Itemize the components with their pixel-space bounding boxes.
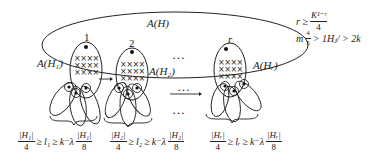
bound-2-ell: l₂	[136, 136, 142, 147]
condition-m-rest: > 1Hⱼ/ > 2k	[313, 33, 361, 44]
bound-2-k-power: k⁻λ	[152, 136, 166, 147]
ge-symbol: ≥	[144, 136, 150, 147]
group-r-index: r	[228, 34, 232, 45]
bound-r-frac-right: |Hᵣ| 8	[266, 131, 282, 152]
group-r-crosses: ×××× ×××× ××××	[218, 59, 243, 80]
condition-r-lhs: r ≥	[296, 16, 308, 27]
bound-1-denominator: 4	[24, 142, 29, 152]
ge-symbol: ≥	[52, 136, 58, 147]
bound-1-frac-right: |H₁| 8	[76, 131, 93, 152]
group-2-index: 2	[129, 38, 135, 49]
ellipsis-mid: …	[177, 80, 190, 93]
group-r-shape	[208, 43, 266, 123]
bound-1-numerator: |H₁|	[18, 131, 35, 142]
ge-symbol: ≥	[129, 136, 135, 147]
bound-1-ell: l₁	[44, 136, 50, 147]
condition-r-fraction: K¹⁻ʳ 4	[310, 11, 327, 32]
bound-group-1: |H₁| 4 ≥ l₁ ≥ k⁻λ |H₁| 8	[18, 131, 92, 152]
ge-symbol: ≥	[228, 136, 234, 147]
condition-m-prefix: m	[296, 33, 303, 44]
condition-r: r ≥ K¹⁻ʳ 4	[296, 11, 327, 32]
ellipsis-bottom: …	[172, 103, 185, 116]
bound-2-denominator: 4	[116, 142, 121, 152]
bound-1-frac-left: |H₁| 4	[18, 131, 35, 152]
bound-2-frac-right: |H₂| 8	[168, 131, 185, 152]
bound-r-denominator: 4	[216, 142, 221, 152]
bound-2-frac-left: |H₂| 4	[110, 131, 127, 152]
outer-set-label: A(H)	[147, 18, 169, 29]
condition-m-fraction: 4 5	[305, 30, 311, 47]
condition-m-numerator: 4	[305, 30, 311, 39]
group-1-crosses: ×××× ×××× ××××	[74, 55, 99, 76]
cross-row: ××××	[120, 75, 145, 82]
bound-r-frac-left: |Hᵣ| 4	[210, 131, 226, 152]
cross-row: ××××	[218, 73, 243, 80]
bound-1-k-power: k⁻λ	[60, 136, 74, 147]
bound-2-denominator2: 8	[174, 142, 179, 152]
ellipsis-top: …	[172, 48, 185, 61]
brace-1	[50, 116, 97, 125]
bound-r-k-power: k⁻λ	[250, 136, 264, 147]
bound-1-numerator2: |H₁|	[76, 131, 93, 142]
condition-r-numerator: K¹⁻ʳ	[310, 11, 327, 22]
condition-m-denominator: 5	[306, 39, 310, 47]
bound-1-denominator2: 8	[82, 142, 87, 152]
group-1-index: 1	[84, 32, 90, 43]
group-2-set-label: A(H₂)	[149, 66, 175, 77]
group-r-set-label: A(Hᵣ)	[253, 60, 278, 71]
ge-symbol: ≥	[37, 136, 43, 147]
bound-group-2: |H₂| 4 ≥ l₂ ≥ k⁻λ |H₂| 8	[110, 131, 184, 152]
ge-symbol: ≥	[242, 136, 248, 147]
bound-r-ell: lᵣ	[235, 136, 240, 147]
group-1-set-label: A(H₁)	[37, 58, 63, 69]
cross-row: ××××	[74, 69, 99, 76]
group-2-crosses: ×××× ×××× ××××	[120, 61, 145, 82]
condition-m: m 4 5 > 1Hⱼ/ > 2k	[296, 30, 361, 47]
bound-2-numerator: |H₂|	[110, 131, 127, 142]
bound-r-numerator: |Hᵣ|	[210, 131, 226, 142]
bound-r-denominator2: 8	[272, 142, 277, 152]
bound-group-r: |Hᵣ| 4 ≥ lᵣ ≥ k⁻λ |Hᵣ| 8	[210, 131, 282, 152]
bound-r-numerator2: |Hᵣ|	[266, 131, 282, 142]
bound-2-numerator2: |H₂|	[168, 131, 185, 142]
